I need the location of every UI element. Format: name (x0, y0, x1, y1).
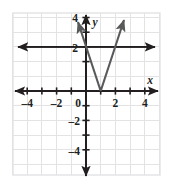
x-tick-label-4: 4 (142, 97, 148, 109)
y-tick-label-4: 4 (72, 12, 78, 24)
origin-label: 0 (75, 97, 81, 109)
y-tick-label-neg4: –4 (68, 145, 81, 157)
y-axis-label: y (90, 16, 98, 29)
y-tick-label-neg2: –2 (68, 115, 81, 127)
coordinate-plane-figure: –4 –2 2 4 0 4 2 –2 –4 x y (0, 0, 171, 183)
x-tick-label-neg2: –2 (50, 97, 63, 109)
x-tick-label-2: 2 (113, 97, 119, 109)
x-axis-label: x (146, 74, 153, 86)
y-tick-label-2: 2 (72, 42, 78, 54)
x-tick-label-neg4: –4 (20, 97, 33, 109)
graph-canvas: –4 –2 2 4 0 4 2 –2 –4 x y (0, 0, 171, 183)
